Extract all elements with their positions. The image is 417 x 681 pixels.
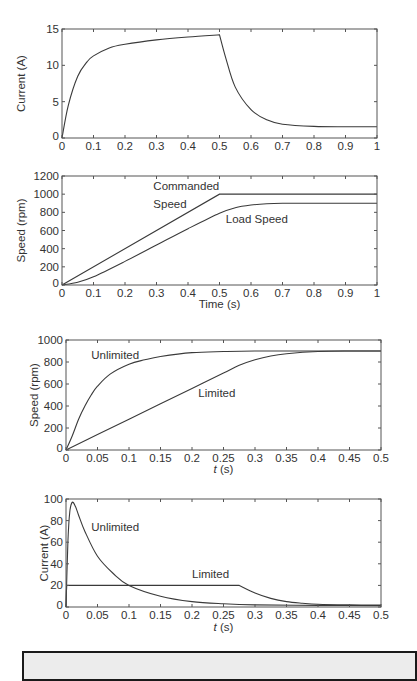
- y-tick-label: 0: [53, 130, 59, 142]
- y-tick-label: 0: [53, 277, 59, 289]
- x-tick-label: 0.35: [275, 609, 297, 621]
- x-tick-label: 1: [374, 287, 380, 299]
- x-tick-label: 0.7: [275, 287, 291, 299]
- axes-frame: [62, 176, 377, 285]
- x-tick-label: 0: [59, 140, 65, 152]
- axes-frame: [62, 29, 377, 138]
- y-tick-label: 60: [50, 536, 63, 548]
- y-tick-label: 400: [40, 243, 59, 255]
- x-tick-label: 0.45: [338, 452, 360, 464]
- annotation-label: Limited: [192, 568, 229, 580]
- annotation-label: Load Speed: [226, 213, 288, 225]
- x-tick-label: 0.1: [86, 287, 102, 299]
- y-tick-label: 15: [46, 23, 59, 35]
- x-tick-label: 0.4: [180, 140, 197, 152]
- x-tick-label: 0.5: [373, 452, 389, 464]
- x-tick-label: 0.05: [86, 452, 108, 464]
- x-tick-label: 0.15: [149, 609, 171, 621]
- x-tick-label: 0.35: [275, 452, 297, 464]
- series-line-limited: [66, 351, 381, 450]
- x-tick-label: 0.2: [117, 287, 133, 299]
- x-tick-label: 0.6: [243, 140, 259, 152]
- x-tick-label: 0.3: [149, 140, 165, 152]
- y-axis-label: Current (A): [15, 55, 27, 112]
- y-tick-label: 40: [50, 558, 63, 570]
- x-tick-label: 0.15: [149, 452, 171, 464]
- y-tick-label: 1000: [33, 188, 59, 200]
- x-tick-label: 1: [374, 140, 380, 152]
- y-tick-label: 600: [44, 378, 63, 390]
- y-tick-label: 200: [44, 422, 63, 434]
- x-tick-label: 0: [63, 452, 69, 464]
- x-tick-label: 0.3: [247, 452, 263, 464]
- y-tick-label: 0: [57, 599, 63, 611]
- x-tick-label: 0.9: [338, 140, 354, 152]
- y-tick-label: 10: [46, 59, 59, 71]
- x-axis-label: t (s): [214, 463, 234, 475]
- y-tick-label: 200: [40, 261, 59, 273]
- x-tick-label: 0.9: [338, 287, 354, 299]
- speed-vs-time-chart: 00.10.20.30.40.50.60.70.80.9102004006008…: [15, 170, 380, 310]
- y-tick-label: 800: [44, 356, 63, 368]
- y-tick-label: 0: [57, 442, 63, 454]
- x-tick-label: 0.8: [306, 140, 322, 152]
- y-tick-label: 1000: [37, 334, 63, 346]
- y-tick-label: 5: [53, 96, 59, 108]
- caption-box: [22, 651, 417, 681]
- y-axis-label: Current (A): [38, 524, 50, 581]
- x-tick-label: 0.8: [306, 287, 322, 299]
- x-tick-label: 0.5: [212, 140, 228, 152]
- x-tick-label: 0: [63, 609, 69, 621]
- x-tick-label: 0.5: [373, 609, 389, 621]
- x-tick-label: 0.2: [184, 609, 200, 621]
- y-axis-label: Speed (rpm): [15, 198, 27, 262]
- current-limited-vs-unlimited-chart: 00.050.10.150.20.250.30.350.40.450.50204…: [38, 493, 389, 633]
- x-tick-label: 0.1: [86, 140, 102, 152]
- x-tick-label: 0.4: [180, 287, 197, 299]
- x-tick-label: 0: [59, 287, 65, 299]
- y-tick-label: 100: [44, 493, 63, 505]
- x-axis-label: t (s): [214, 621, 234, 633]
- annotation-label: Limited: [198, 387, 235, 399]
- current-vs-time-chart: 00.10.20.30.40.50.60.70.80.91051015Curre…: [15, 23, 380, 152]
- series-line-load-speed: [62, 203, 377, 285]
- x-tick-label: 0.45: [338, 609, 360, 621]
- annotation-label: Commanded: [153, 180, 219, 192]
- x-tick-label: 0.2: [117, 140, 133, 152]
- x-tick-label: 0.25: [212, 609, 234, 621]
- annotation-label: Speed: [153, 198, 186, 210]
- y-tick-label: 1200: [33, 170, 59, 182]
- y-axis-label: Speed (rpm): [28, 363, 40, 427]
- speed-limited-vs-unlimited-chart: 00.050.10.150.20.250.30.350.40.450.50200…: [28, 334, 389, 475]
- x-axis-label: Time (s): [199, 298, 241, 310]
- x-tick-label: 0.3: [247, 609, 263, 621]
- series-line-commanded-speed: [62, 194, 377, 285]
- x-tick-label: 0.4: [310, 609, 327, 621]
- x-tick-label: 0.4: [310, 452, 327, 464]
- series-line-unlimited: [66, 502, 381, 607]
- annotation-label: Unlimited: [91, 521, 139, 533]
- series-line-unlimited: [66, 351, 381, 450]
- x-tick-label: 0.7: [275, 140, 291, 152]
- y-tick-label: 20: [50, 579, 63, 591]
- y-tick-label: 400: [44, 400, 63, 412]
- x-tick-label: 0.3: [149, 287, 165, 299]
- series-line-current: [62, 35, 377, 138]
- x-tick-label: 0.05: [86, 609, 108, 621]
- y-tick-label: 600: [40, 225, 59, 237]
- y-tick-label: 80: [50, 515, 63, 527]
- x-tick-label: 0.2: [184, 452, 200, 464]
- x-tick-label: 0.1: [121, 609, 137, 621]
- x-tick-label: 0.6: [243, 287, 259, 299]
- annotation-label: Unlimited: [91, 349, 139, 361]
- y-tick-label: 800: [40, 206, 59, 218]
- x-tick-label: 0.1: [121, 452, 137, 464]
- axes-frame: [66, 499, 381, 607]
